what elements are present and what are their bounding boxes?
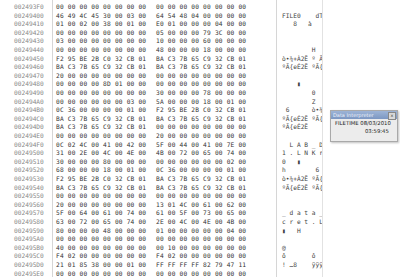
filetime-label: FILETIME [335,120,359,126]
filetime-row: FILETIME 08/03/2010 [331,119,397,127]
panel-title: Data Interpreter [333,112,374,118]
hex-view[interactable]: 002493F000 00 00 00 00 00 00 0000 00 00 … [0,0,322,277]
row-address: 002495E0 [14,268,54,277]
data-interpreter-panel[interactable]: Data Interpreter × FILETIME 08/03/2010 0… [330,110,398,142]
hex-row[interactable]: 002495E000 00 00 00 00 00 00 0000 00 00 … [0,268,322,277]
panel-title-bar[interactable]: Data Interpreter × [331,111,397,119]
hex-bytes-right[interactable]: 00 00 00 00 00 00 00 00 [156,268,246,277]
filetime-time: 03:59:45 [331,127,397,135]
hex-bytes-left[interactable]: 00 00 00 00 00 00 00 00 [56,268,146,277]
close-icon[interactable]: × [388,112,396,120]
filetime-date: 08/03/2010 [360,120,391,126]
